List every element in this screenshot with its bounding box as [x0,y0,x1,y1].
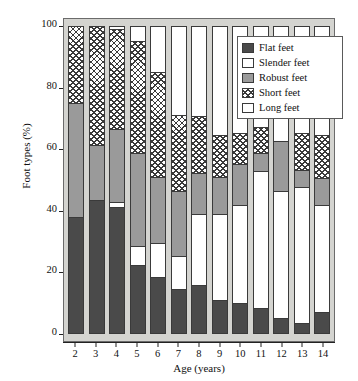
chart-legend: Flat feetSlender feetRobust feetShort fe… [237,36,343,119]
x-axis-tick-mark [198,343,199,347]
bar-segment-short-feet[interactable] [110,30,124,129]
bar-age-2[interactable] [68,26,84,334]
x-axis-tick: 13 [294,343,310,359]
bar-segment-flat-feet[interactable] [213,301,227,333]
x-axis-tick: 12 [274,343,290,359]
bar-age-9[interactable] [212,26,228,334]
bar-segment-long-feet[interactable] [172,27,186,116]
bar-segment-robust-feet[interactable] [233,165,247,206]
bar-segment-short-feet[interactable] [90,27,104,146]
bar-segment-short-feet[interactable] [213,136,227,179]
bar-segment-robust-feet[interactable] [315,179,329,207]
bar-segment-flat-feet[interactable] [131,266,145,333]
bar-segment-short-feet[interactable] [151,73,165,179]
x-axis-tick: 2 [67,343,83,359]
bar-segment-robust-feet[interactable] [131,154,145,247]
bar-segment-short-feet[interactable] [315,136,329,179]
bar-segment-short-feet[interactable] [172,116,186,193]
x-axis-tick-label: 14 [318,348,329,359]
bar-segment-short-feet[interactable] [69,27,83,104]
bar-segment-slender-feet[interactable] [192,215,206,285]
y-axis-tick-label: 60 [47,141,58,152]
bar-segment-robust-feet[interactable] [254,154,268,172]
legend-item-label: Short feet [259,87,300,98]
bar-segment-slender-feet[interactable] [274,192,288,319]
bar-segment-robust-feet[interactable] [69,104,83,219]
bar-segment-flat-feet[interactable] [295,324,309,333]
x-axis-tick: 11 [253,343,269,359]
bar-segment-flat-feet[interactable] [172,290,186,333]
bar-segment-robust-feet[interactable] [151,178,165,244]
bar-segment-flat-feet[interactable] [90,201,104,333]
legend-item-long-feet[interactable]: Long feet [242,100,338,115]
bar-segment-short-feet[interactable] [131,42,145,154]
bar-segment-short-feet[interactable] [295,134,309,171]
bar-segment-long-feet[interactable] [192,27,206,117]
y-axis-tick-label: 80 [47,80,58,91]
x-axis-tick-mark [322,343,323,347]
x-axis-tick-mark [116,343,117,347]
bar-segment-flat-feet[interactable] [110,208,124,333]
x-axis-tick-label: 12 [276,348,287,359]
bar-segment-robust-feet[interactable] [110,130,124,203]
bar-age-5[interactable] [130,26,146,334]
x-axis-tick: 8 [191,343,207,359]
x-axis-tick: 3 [88,343,104,359]
legend-item-slender-feet[interactable]: Slender feet [242,55,338,70]
bar-segment-flat-feet[interactable] [274,319,288,333]
x-axis-tick-mark [95,343,96,347]
legend-item-flat-feet[interactable]: Flat feet [242,40,338,55]
x-axis-tick-label: 2 [72,348,77,359]
bar-segment-slender-feet[interactable] [233,206,247,304]
bar-segment-flat-feet[interactable] [315,313,329,333]
y-axis-tick-label: 20 [47,264,58,275]
bar-segment-long-feet[interactable] [213,27,227,136]
bar-segment-robust-feet[interactable] [172,192,186,256]
bar-age-4[interactable] [109,26,125,334]
x-axis-tick-label: 4 [114,348,119,359]
legend-item-short-feet[interactable]: Short feet [242,85,338,100]
bar-segment-slender-feet[interactable] [131,247,145,265]
legend-item-label: Long feet [259,102,300,113]
x-axis-tick-label: 9 [217,348,222,359]
bar-segment-robust-feet[interactable] [274,142,288,192]
bar-segment-slender-feet[interactable] [172,257,186,291]
bar-age-8[interactable] [191,26,207,334]
bar-segment-short-feet[interactable] [254,128,268,154]
legend-swatch-icon [242,88,254,98]
bar-segment-flat-feet[interactable] [254,309,268,333]
bar-segment-slender-feet[interactable] [213,215,227,301]
bar-segment-slender-feet[interactable] [254,172,268,308]
bar-segment-long-feet[interactable] [151,27,165,73]
legend-item-label: Flat feet [259,42,294,53]
bar-segment-slender-feet[interactable] [315,206,329,313]
bar-segment-robust-feet[interactable] [192,174,206,215]
bar-segment-long-feet[interactable] [131,27,145,42]
bar-segment-slender-feet[interactable] [295,188,309,324]
bar-segment-flat-feet[interactable] [69,218,83,333]
x-axis-tick: 7 [170,343,186,359]
x-axis-tick-label: 7 [176,348,181,359]
bar-segment-robust-feet[interactable] [295,171,309,188]
x-axis-ticks: 234567891011121314 [67,343,331,359]
y-axis-tick-label: 0 [52,326,57,337]
bar-segment-flat-feet[interactable] [233,304,247,333]
x-axis-tick: 5 [129,343,145,359]
bar-age-6[interactable] [150,26,166,334]
y-axis-tick-label: 100 [41,18,57,29]
x-axis-tick-mark [219,343,220,347]
x-axis-tick-label: 8 [196,348,201,359]
bar-segment-flat-feet[interactable] [151,278,165,333]
bar-segment-short-feet[interactable] [192,117,206,174]
y-axis: 020406080100 [0,0,66,381]
legend-item-robust-feet[interactable]: Robust feet [242,70,338,85]
bar-age-7[interactable] [171,26,187,334]
bar-age-3[interactable] [89,26,105,334]
x-axis-tick-mark [75,343,76,347]
bar-segment-robust-feet[interactable] [90,146,104,201]
bar-segment-short-feet[interactable] [233,134,247,165]
bar-segment-robust-feet[interactable] [213,178,227,215]
bar-segment-flat-feet[interactable] [192,286,206,333]
x-axis-tick-label: 11 [256,348,266,359]
bar-segment-slender-feet[interactable] [151,244,165,278]
